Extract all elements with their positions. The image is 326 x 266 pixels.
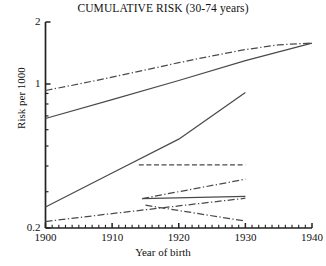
series-line-upper-dashdot-long xyxy=(46,43,313,90)
series-line-short-dashdot-declining xyxy=(145,205,245,221)
series-layer xyxy=(46,43,313,221)
series-line-short-solid-flat xyxy=(142,196,245,198)
series-line-upper-solid-long xyxy=(46,43,313,118)
axes xyxy=(46,22,313,228)
plot-area xyxy=(0,0,326,266)
series-line-lower-dashdot-long-rising xyxy=(46,198,246,221)
series-line-short-dashdot-rising xyxy=(142,179,245,198)
chart-root: CUMULATIVE RISK (30-74 years) Risk per 1… xyxy=(0,0,326,266)
